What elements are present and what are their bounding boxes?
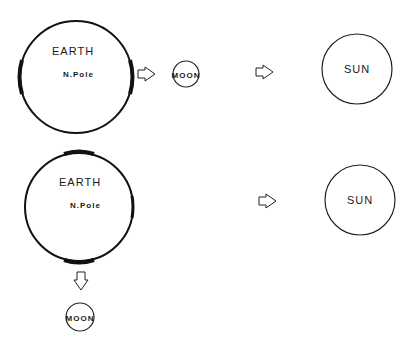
moon-bottom-label: MOON [66, 314, 95, 323]
hollow-arrow-icon [256, 65, 273, 79]
sun-bottom-label: SUN [347, 194, 373, 206]
sun-bottom: SUN [325, 165, 395, 235]
sun-top-label: SUN [344, 63, 370, 75]
moon-top-label: MOON [172, 71, 201, 80]
earth-top-label: EARTH [52, 45, 94, 57]
earth-bottom-label: EARTH [59, 176, 101, 188]
bottom-row: EARTH N.Pole SUN MOON [25, 152, 395, 332]
top-row: EARTH N.Pole MOON SUN [20, 21, 393, 133]
moon-top: MOON [172, 61, 201, 87]
earth-top: EARTH N.Pole [20, 21, 133, 133]
earth-moon-sun-diagram: EARTH N.Pole MOON SUN EARTH [0, 0, 413, 354]
moon-bottom: MOON [66, 303, 95, 331]
sun-top: SUN [322, 34, 392, 104]
earth-top-sublabel: N.Pole [63, 70, 94, 79]
earth-bottom-sublabel: N.Pole [70, 201, 101, 210]
earth-bottom: EARTH N.Pole [25, 152, 133, 263]
hollow-arrow-icon [138, 67, 155, 81]
hollow-arrow-icon [259, 194, 276, 208]
hollow-arrow-down-icon [74, 272, 88, 290]
